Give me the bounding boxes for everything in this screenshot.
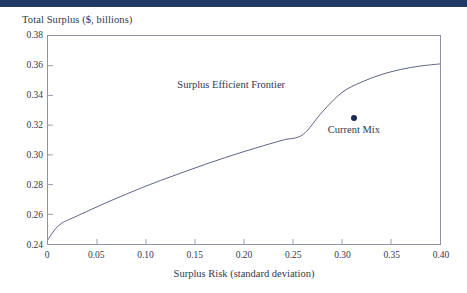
y-tick-label: 0.38 — [19, 30, 43, 40]
x-tick-label: 0.15 — [186, 250, 203, 260]
surplus-efficient-frontier-line — [48, 64, 440, 240]
current-mix-point — [351, 115, 357, 121]
y-tick-label: 0.32 — [19, 120, 43, 130]
y-axis-title: Total Surplus ($, billions) — [22, 14, 132, 25]
y-tick-label: 0.26 — [19, 210, 43, 220]
y-tick-label: 0.34 — [19, 90, 43, 100]
plot-area: Surplus Efficient FrontierCurrent Mix — [47, 35, 441, 245]
y-tick-label: 0.24 — [19, 240, 43, 250]
frontier-curve-svg — [48, 36, 440, 244]
current-mix-label: Current Mix — [328, 124, 380, 135]
x-tick-label: 0.35 — [383, 250, 400, 260]
x-tick-label: 0.20 — [236, 250, 253, 260]
x-tick-label: 0.05 — [88, 250, 105, 260]
y-tick-label: 0.30 — [19, 150, 43, 160]
x-tick-label: 0.40 — [433, 250, 450, 260]
x-tick-label: 0.25 — [285, 250, 302, 260]
axis-tick-marks — [48, 66, 391, 244]
y-tick-label: 0.28 — [19, 180, 43, 190]
x-tick-label: 0.10 — [137, 250, 154, 260]
y-tick-label: 0.36 — [19, 60, 43, 70]
x-tick-label: 0 — [45, 250, 50, 260]
x-axis-title: Surplus Risk (standard deviation) — [47, 268, 441, 279]
x-tick-label: 0.30 — [334, 250, 351, 260]
surplus-efficient-frontier-chart: Total Surplus ($, billions) 0.240.260.28… — [0, 0, 467, 293]
frontier-annotation-label: Surplus Efficient Frontier — [177, 79, 285, 90]
x-axis-tick-labels: 00.050.100.150.200.250.300.350.40 — [47, 250, 441, 264]
y-axis-tick-labels: 0.240.260.280.300.320.340.360.38 — [17, 35, 43, 245]
